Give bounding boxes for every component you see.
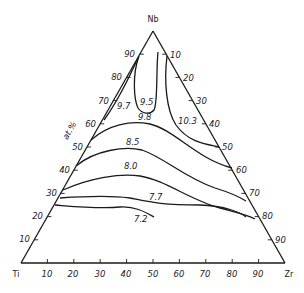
right-edge-tick-labels: 10 20 30 40 50 60 70 80 90 <box>170 50 286 245</box>
contour-label-9-8: 9.8 <box>138 112 152 122</box>
axis-unit-label: at.% <box>60 120 78 142</box>
contour-label-7-2: 7.2 <box>134 214 148 224</box>
svg-text:10: 10 <box>170 50 181 60</box>
svg-text:10: 10 <box>19 234 30 244</box>
svg-text:20: 20 <box>32 211 43 221</box>
bottom-edge-tick-labels: 10 20 30 40 50 60 70 80 90 <box>42 269 264 279</box>
vertex-label-left: Ti <box>12 270 20 279</box>
svg-text:90: 90 <box>124 49 135 59</box>
svg-text:50: 50 <box>72 142 83 152</box>
contour-label-9-5: 9.5 <box>140 97 154 107</box>
svg-text:30: 30 <box>196 96 207 106</box>
svg-text:80: 80 <box>262 211 273 221</box>
svg-text:60: 60 <box>85 119 96 129</box>
svg-text:90: 90 <box>253 269 264 279</box>
svg-text:20: 20 <box>68 269 79 279</box>
svg-text:40: 40 <box>121 269 132 279</box>
svg-text:80: 80 <box>227 269 238 279</box>
svg-text:70: 70 <box>200 269 211 279</box>
contour-label-8-5: 8.5 <box>126 137 140 147</box>
svg-text:90: 90 <box>275 235 286 245</box>
left-edge-tick-labels: 10 20 30 40 50 60 70 80 90 <box>19 49 135 244</box>
contour-label-10-3: 10.3 <box>178 116 197 126</box>
svg-text:20: 20 <box>183 73 194 83</box>
ternary-diagram: Nb Ti Zr at.% 10 20 30 40 50 60 70 80 90 <box>0 0 304 293</box>
triangle-frame <box>21 31 285 263</box>
svg-text:60: 60 <box>174 269 185 279</box>
svg-text:80: 80 <box>111 72 122 82</box>
svg-text:70: 70 <box>98 96 109 106</box>
svg-text:40: 40 <box>209 119 220 129</box>
contour-label-7-7: 7.7 <box>149 192 163 202</box>
vertex-label-top: Nb <box>147 15 158 24</box>
vertex-label-right: Zr <box>285 270 294 279</box>
contour-label-9-7: 9.7 <box>117 101 131 111</box>
contour-label-8-0: 8.0 <box>124 161 138 171</box>
svg-text:30: 30 <box>46 188 57 198</box>
svg-text:40: 40 <box>59 165 70 175</box>
svg-text:10: 10 <box>42 269 53 279</box>
svg-text:70: 70 <box>249 188 260 198</box>
svg-text:50: 50 <box>148 269 159 279</box>
svg-text:30: 30 <box>95 269 106 279</box>
svg-text:60: 60 <box>236 165 247 175</box>
svg-text:50: 50 <box>222 142 233 152</box>
